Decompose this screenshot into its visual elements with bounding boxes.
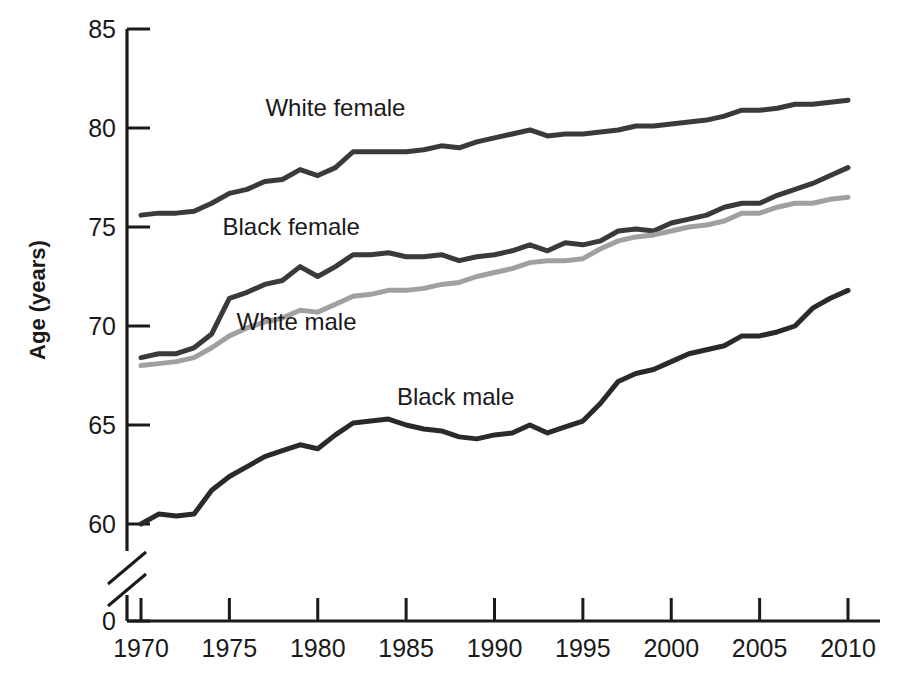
- series-label-black-female: Black female: [223, 213, 360, 240]
- y-tick-label: 80: [88, 114, 116, 142]
- chart-canvas: 0606570758085 19701975198019851990199520…: [0, 0, 897, 681]
- y-tick-label: 75: [88, 213, 116, 241]
- y-tick-label: 65: [88, 411, 116, 439]
- x-tick-label: 2005: [732, 634, 788, 662]
- x-tick-label: 2000: [643, 634, 699, 662]
- y-tick-label: 0: [102, 607, 116, 635]
- x-tick-label: 2010: [820, 634, 876, 662]
- y-tick-label: 70: [88, 312, 116, 340]
- x-tick-label: 1990: [467, 634, 523, 662]
- series-label-white-female: White female: [265, 94, 405, 121]
- line-chart: 0606570758085 19701975198019851990199520…: [0, 0, 897, 681]
- y-tick-label: 60: [88, 510, 116, 538]
- x-tick-label: 1970: [113, 634, 169, 662]
- series-label-black-male: Black male: [397, 383, 514, 410]
- y-axis-title: Age (years): [25, 240, 50, 360]
- series-label-white-male: White male: [237, 308, 357, 335]
- x-tick-label: 1985: [378, 634, 434, 662]
- x-tick-label: 1995: [555, 634, 611, 662]
- x-tick-label: 1980: [290, 634, 346, 662]
- y-tick-label: 85: [88, 15, 116, 43]
- x-tick-label: 1975: [202, 634, 258, 662]
